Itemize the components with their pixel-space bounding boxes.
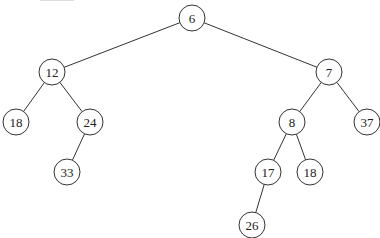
node-label: 7 (326, 65, 333, 80)
tree-edge (60, 82, 82, 111)
node-label: 18 (304, 165, 317, 180)
tree-edge (296, 134, 305, 160)
tree-edge (24, 83, 45, 112)
node-label: 12 (46, 65, 59, 80)
tree-edge (204, 23, 317, 67)
node-label: 18 (10, 115, 23, 130)
node-label: 33 (61, 165, 74, 180)
tree-node: 33 (54, 159, 80, 185)
tree-node: 12 (39, 59, 65, 85)
tree-node: 6 (179, 5, 205, 31)
binary-tree-diagram: 6127182433837171826 (0, 0, 380, 238)
node-label: 8 (289, 115, 296, 130)
tree-edge (256, 184, 264, 212)
tree-edge (300, 82, 322, 111)
tree-edge (337, 82, 359, 111)
tree-edge (64, 23, 180, 68)
tree-node: 17 (255, 159, 281, 185)
node-label: 37 (361, 115, 375, 130)
tree-edge (72, 134, 84, 160)
node-label: 6 (189, 11, 196, 26)
tree-edge (274, 134, 287, 161)
tree-node: 26 (239, 212, 265, 238)
tree-node: 18 (3, 109, 29, 135)
node-label: 26 (246, 218, 260, 233)
node-label: 17 (262, 165, 276, 180)
node-label: 24 (84, 115, 98, 130)
tree-node: 24 (77, 109, 103, 135)
tree-node: 7 (316, 59, 342, 85)
tree-nodes: 6127182433837171826 (3, 5, 380, 238)
tree-node: 37 (354, 109, 380, 135)
tree-node: 18 (297, 159, 323, 185)
tree-node: 8 (279, 109, 305, 135)
